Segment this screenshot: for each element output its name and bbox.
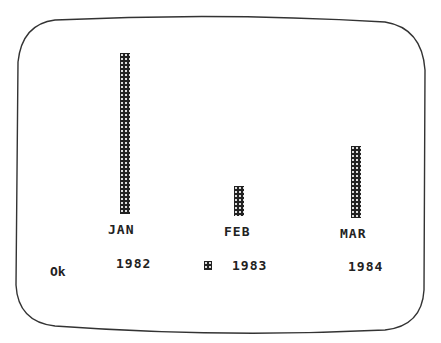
- bar-mar-1982: [331, 178, 341, 218]
- bar-jan-1983: [120, 53, 130, 214]
- bar-feb-1984: [252, 132, 262, 216]
- legend-swatch-1984: [320, 262, 328, 271]
- legend-label-1983: 1983: [232, 258, 267, 273]
- bar-jan-1984: [138, 140, 148, 214]
- status-prompt: Ok: [50, 264, 66, 279]
- bar-jan-1982: [100, 86, 110, 214]
- legend-swatch-1982: [90, 259, 98, 268]
- bar-mar-1984: [369, 156, 379, 218]
- legend-label-1982: 1982: [116, 256, 151, 271]
- bar-feb-1983: [234, 186, 244, 216]
- legend-label-1984: 1984: [348, 259, 383, 274]
- category-label-jan: JAN: [108, 222, 134, 237]
- bar-feb-1982: [214, 163, 224, 216]
- category-label-feb: FEB: [224, 224, 250, 239]
- bar-mar-1983: [351, 146, 361, 218]
- category-label-mar: MAR: [340, 226, 366, 241]
- legend-swatch-1983: [204, 261, 212, 270]
